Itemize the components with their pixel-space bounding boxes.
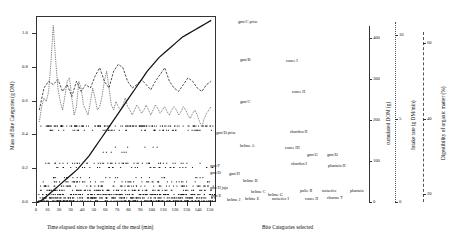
bite-event-dot <box>186 181 187 182</box>
right-tick-label: 200 <box>373 117 380 122</box>
bottom-tick-label: 30 <box>68 207 73 212</box>
bite-event-dot <box>188 130 189 131</box>
bite-category-label: gmt/G <box>307 152 318 157</box>
right-tick-label: 0 <box>373 199 375 204</box>
bite-event-dot <box>168 197 169 198</box>
bite-event-dot <box>135 126 136 127</box>
bottom-tick-mark <box>36 202 37 206</box>
bite-event-dot <box>63 163 64 164</box>
bite-event-dot <box>41 200 42 201</box>
bite-event-dot <box>88 126 89 127</box>
bite-event-dot <box>80 194 81 195</box>
bite-event-dot <box>76 126 77 127</box>
bite-event-dot <box>107 126 108 127</box>
left-tick-label: 0.4 <box>22 131 28 136</box>
bite-event-dot <box>73 197 74 198</box>
bite-category-label: ronce II <box>292 89 305 94</box>
bite-event-dot <box>158 163 159 164</box>
bite-event-dot <box>106 197 107 198</box>
bite-event-dot <box>127 194 128 195</box>
bite-event-dot <box>103 194 104 195</box>
bite-event-dot <box>202 177 203 178</box>
bite-event-dot <box>212 126 213 127</box>
right-tick-label: 10 <box>399 32 404 37</box>
bite-event-dot <box>127 181 128 182</box>
bite-event-dot <box>167 181 168 182</box>
bite-event-dot <box>49 126 50 127</box>
bite-event-dot <box>198 194 199 195</box>
bite-event-dot <box>153 197 154 198</box>
bite-category-label: brôme J <box>227 197 240 202</box>
bite-event-dot <box>154 130 155 131</box>
bite-event-dot <box>172 130 173 131</box>
bite-event-dot <box>146 200 147 201</box>
bite-event-dot <box>94 186 95 187</box>
bite-event-dot <box>131 167 132 168</box>
bite-event-dot <box>170 167 171 168</box>
bite-event-dot <box>182 181 183 182</box>
bite-event-dot <box>125 181 126 182</box>
bite-event-dot <box>206 126 207 127</box>
bite-event-dot <box>129 194 130 195</box>
bite-event-dot <box>147 181 148 182</box>
bite-event-dot <box>40 197 41 198</box>
left-axis-title: Mass of Bite Categories (g DM) <box>9 82 15 150</box>
bite-event-dot <box>195 177 196 178</box>
bite-event-dot <box>209 181 210 182</box>
bite-event-dot <box>106 130 107 131</box>
bite-event-dot <box>102 163 103 164</box>
bite-event-dot <box>56 200 57 201</box>
bite-event-dot <box>42 194 43 195</box>
left-tick-label: 1.0 <box>22 30 28 35</box>
bite-category-label: gmt/C prise <box>238 19 258 24</box>
bite-event-dot <box>144 197 145 198</box>
bite-event-dot <box>90 194 91 195</box>
bite-event-dot <box>146 126 147 127</box>
bite-event-dot <box>46 186 47 187</box>
bite-event-dot <box>144 186 145 187</box>
bite-event-dot <box>43 200 44 201</box>
bite-event-dot <box>171 181 172 182</box>
bite-event-dot <box>145 194 146 195</box>
bite-event-dot <box>201 190 202 191</box>
bite-event-dot <box>167 200 168 201</box>
bite-event-dot <box>72 181 73 182</box>
bite-event-dot <box>59 181 60 182</box>
bite-event-dot <box>157 194 158 195</box>
bite-event-dot <box>181 163 182 164</box>
bite-event-dot <box>61 186 62 187</box>
bite-event-dot <box>133 197 134 198</box>
bite-event-dot <box>52 197 53 198</box>
bite-event-dot <box>104 126 105 127</box>
bite-event-dot <box>154 126 155 127</box>
bite-event-dot <box>203 197 204 198</box>
bite-event-dot <box>66 126 67 127</box>
bite-event-dot <box>152 181 153 182</box>
bite-event-dot <box>103 130 104 131</box>
bite-event-dot <box>89 177 90 178</box>
bite-event-dot <box>181 181 182 182</box>
bite-event-dot <box>132 200 133 201</box>
bottom-tick-label: 70 <box>115 207 120 212</box>
bite-event-dot <box>74 130 75 131</box>
right-tick-mark <box>395 119 398 120</box>
bite-event-dot <box>45 163 46 164</box>
bite-event-dot <box>211 130 212 131</box>
bite-event-dot <box>141 177 142 178</box>
bite-event-dot <box>71 194 72 195</box>
bite-event-dot <box>154 190 155 191</box>
bite-event-dot <box>102 181 103 182</box>
bite-category-label: noisetier <box>322 188 336 193</box>
bite-event-dot <box>140 126 141 127</box>
bite-event-dot <box>127 186 128 187</box>
right-tick-label: 0 <box>399 199 401 204</box>
bite-event-dot <box>115 177 116 178</box>
bite-event-dot <box>103 163 104 164</box>
bite-event-dot <box>99 197 100 198</box>
bite-event-dot <box>111 194 112 195</box>
bite-event-dot <box>179 167 180 168</box>
bite-event-dot <box>99 190 100 191</box>
bite-event-dot <box>133 186 134 187</box>
bottom-tick-mark <box>83 202 84 206</box>
bite-event-dot <box>122 152 123 153</box>
